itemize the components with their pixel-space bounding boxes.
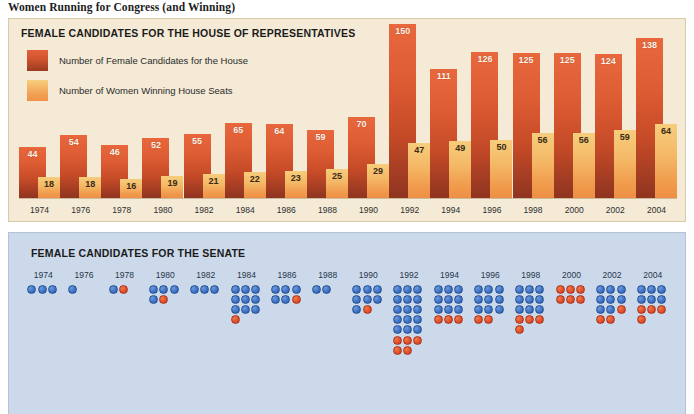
senate-year-label: 1998 <box>521 271 540 280</box>
candidate-dot <box>393 315 402 324</box>
house-x-tick: 2004 <box>636 199 677 221</box>
bar-group: 7029 <box>348 24 389 198</box>
bar-value-candidates: 52 <box>142 140 169 150</box>
bar-value-winners: 64 <box>655 126 677 136</box>
candidate-dot <box>68 285 77 294</box>
candidate-dot <box>292 285 301 294</box>
winning-candidate-dot <box>393 346 402 355</box>
house-x-axis: 1974197619781980198219841986198819901992… <box>19 198 677 221</box>
senate-chart-panel: FEMALE CANDIDATES FOR THE SENATE 1974197… <box>8 232 686 414</box>
house-x-tick: 2002 <box>595 199 636 221</box>
candidate-dot <box>149 285 158 294</box>
bar-value-winners: 59 <box>614 132 636 142</box>
candidate-dot <box>525 305 534 314</box>
senate-year-label: 1994 <box>440 271 459 280</box>
candidate-dot <box>27 285 36 294</box>
senate-year-column: 1992 <box>389 271 430 381</box>
bar-value-winners: 29 <box>367 166 389 176</box>
bar-group: 12556 <box>554 24 595 198</box>
senate-year-column: 1974 <box>23 271 64 381</box>
candidate-dot <box>596 285 605 294</box>
bar-value-winners: 18 <box>38 179 60 189</box>
infographic-page: Women Running for Congress (and Winning)… <box>0 0 694 414</box>
winning-candidate-dot <box>159 295 168 304</box>
bar-value-winners: 25 <box>326 171 348 181</box>
candidate-dot <box>231 285 240 294</box>
bar-value-winners: 19 <box>161 178 183 188</box>
senate-year-label: 2002 <box>603 271 622 280</box>
candidate-dot <box>393 305 402 314</box>
winning-candidate-dot <box>292 295 301 304</box>
senate-year-label: 1984 <box>237 271 256 280</box>
candidate-dot <box>281 285 290 294</box>
candidate-dot <box>454 285 463 294</box>
candidate-dot <box>484 305 493 314</box>
bar-winners: 47 <box>408 143 430 198</box>
bar-winners: 56 <box>573 133 595 198</box>
candidate-dot <box>352 285 361 294</box>
winning-candidate-dot <box>454 315 463 324</box>
senate-year-label: 1990 <box>359 271 378 280</box>
candidate-dot <box>312 285 321 294</box>
senate-year-column: 1982 <box>186 271 227 381</box>
senate-dot-grid <box>474 284 507 325</box>
senate-year-label: 2004 <box>643 271 662 280</box>
candidate-dot <box>109 285 118 294</box>
candidate-dot <box>454 295 463 304</box>
bar-value-winners: 18 <box>79 179 101 189</box>
senate-year-column: 1990 <box>348 271 389 381</box>
candidate-dot <box>495 295 504 304</box>
senate-year-column: 1978 <box>104 271 145 381</box>
house-x-tick: 1996 <box>471 199 512 221</box>
senate-dot-grid <box>189 284 222 294</box>
senate-year-label: 1974 <box>34 271 53 280</box>
bar-group: 13864 <box>636 24 677 198</box>
candidate-dot <box>515 295 524 304</box>
candidate-dot <box>251 295 260 304</box>
candidate-dot <box>413 305 422 314</box>
senate-year-column: 1986 <box>267 271 308 381</box>
candidate-dot <box>190 285 199 294</box>
candidate-dot <box>403 295 412 304</box>
bar-winners: 49 <box>449 141 471 198</box>
winning-candidate-dot <box>484 315 493 324</box>
senate-year-column: 1998 <box>511 271 552 381</box>
senate-year-label: 1986 <box>278 271 297 280</box>
candidate-dot <box>434 285 443 294</box>
senate-year-label: 1996 <box>481 271 500 280</box>
winning-candidate-dot <box>637 315 646 324</box>
candidate-dot <box>535 285 544 294</box>
candidate-dot <box>454 305 463 314</box>
bar-winners: 64 <box>655 124 677 198</box>
winning-candidate-dot <box>231 315 240 324</box>
winning-candidate-dot <box>606 315 615 324</box>
candidate-dot <box>525 295 534 304</box>
candidate-dot <box>413 315 422 324</box>
senate-dot-grid <box>108 284 141 294</box>
bar-group: 4418 <box>19 24 60 198</box>
senate-dot-grid <box>636 284 669 325</box>
candidate-dot <box>474 285 483 294</box>
house-x-tick: 1998 <box>513 199 554 221</box>
bar-winners: 21 <box>203 174 225 198</box>
bar-group: 5418 <box>60 24 101 198</box>
candidate-dot <box>241 305 250 314</box>
candidate-dot <box>495 305 504 314</box>
senate-year-column: 2004 <box>632 271 673 381</box>
candidate-dot <box>200 285 209 294</box>
winning-candidate-dot <box>434 315 443 324</box>
bar-winners: 23 <box>285 171 307 198</box>
candidate-dot <box>495 285 504 294</box>
senate-dot-grid <box>352 284 385 315</box>
candidate-dot <box>281 295 290 304</box>
candidate-dot <box>352 295 361 304</box>
bar-group: 15047 <box>389 24 430 198</box>
candidate-dot <box>403 325 412 334</box>
candidate-dot <box>403 315 412 324</box>
senate-dot-grid <box>149 284 182 304</box>
senate-year-label: 1988 <box>318 271 337 280</box>
senate-dot-grid <box>555 284 588 304</box>
candidate-dot <box>271 295 280 304</box>
candidate-dot <box>403 285 412 294</box>
bar-group: 12459 <box>595 24 636 198</box>
